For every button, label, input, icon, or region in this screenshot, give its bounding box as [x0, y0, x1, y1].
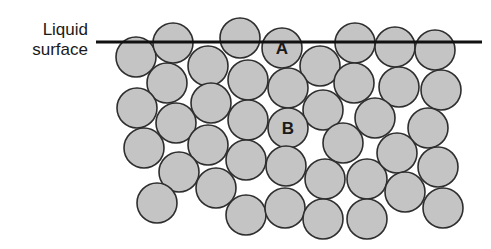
molecule-circle — [124, 128, 164, 168]
molecule-circle — [305, 159, 345, 199]
molecule-circle — [191, 83, 231, 123]
molecule-circle — [266, 146, 306, 186]
molecule-circle — [188, 46, 228, 86]
molecule-circle — [415, 30, 455, 70]
molecule-label-a: A — [276, 39, 288, 58]
molecule-circle — [228, 60, 268, 100]
molecule-circle — [423, 188, 463, 228]
molecule-circle — [347, 199, 387, 239]
molecule-circle — [385, 172, 425, 212]
molecule-circle — [375, 27, 415, 67]
molecule-circle — [228, 100, 268, 140]
molecule-circle — [220, 18, 260, 58]
molecule-circle — [226, 195, 266, 235]
molecule-circle — [303, 199, 343, 239]
molecule-circle — [418, 147, 458, 187]
molecule-circle — [421, 70, 461, 110]
molecule-circle — [268, 68, 308, 108]
molecule-circle — [137, 183, 177, 223]
molecule-circle — [377, 133, 417, 173]
molecule-circle — [323, 123, 363, 163]
molecule-circle — [334, 63, 374, 103]
molecule-circle — [265, 188, 305, 228]
molecule-circle — [226, 140, 266, 180]
molecule-circle — [117, 88, 157, 128]
molecule-diagram: AB — [0, 0, 491, 249]
molecule-label-b: B — [282, 119, 294, 138]
molecule-circle — [355, 98, 395, 138]
